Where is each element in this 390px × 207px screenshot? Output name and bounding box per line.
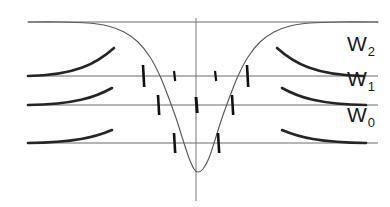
level-label-w0-base: W bbox=[347, 103, 367, 126]
level-label-w1-subscript: 1 bbox=[367, 79, 375, 94]
potential-well-plot bbox=[0, 0, 390, 207]
energy-level-diagram: W2 W1 W0 bbox=[0, 0, 390, 207]
node-tick-w1-0 bbox=[158, 95, 159, 115]
node-tick-w1-1 bbox=[196, 97, 197, 113]
energy-level-lines bbox=[28, 22, 378, 143]
node-tick-w2-3 bbox=[247, 65, 248, 87]
level-label-w2-base: W bbox=[347, 32, 367, 55]
node-tick-w2-0 bbox=[143, 65, 144, 87]
wavefunction-segments bbox=[28, 48, 366, 143]
node-tick-w0-0 bbox=[174, 133, 175, 153]
wavefunction-left-w2 bbox=[28, 48, 114, 76]
level-label-w0-subscript: 0 bbox=[367, 115, 375, 130]
node-tick-w2-1 bbox=[174, 71, 175, 81]
level-label-w2-subscript: 2 bbox=[367, 44, 375, 59]
wavefunction-right-w0 bbox=[282, 130, 366, 143]
level-label-w1: W1 bbox=[347, 68, 375, 93]
node-tick-w2-2 bbox=[215, 71, 216, 81]
wavefunction-left-w1 bbox=[28, 88, 112, 105]
node-tick-w1-2 bbox=[232, 95, 233, 115]
level-label-w1-base: W bbox=[347, 67, 367, 90]
potential-well-curve bbox=[28, 22, 378, 172]
wavefunction-left-w0 bbox=[28, 130, 112, 143]
level-label-w2: W2 bbox=[347, 33, 375, 58]
node-tick-w0-1 bbox=[218, 133, 219, 153]
level-label-w0: W0 bbox=[347, 104, 375, 129]
